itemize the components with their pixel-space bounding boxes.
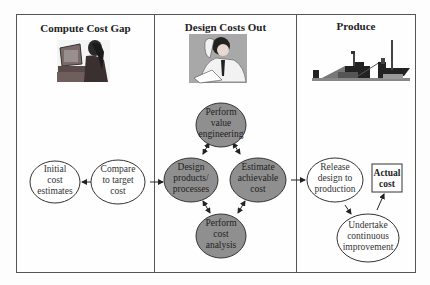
svg-text:cost: cost bbox=[213, 229, 229, 239]
svg-text:Actual: Actual bbox=[374, 168, 401, 178]
node-perform-cost-analysis: Perform cost analysis bbox=[196, 214, 246, 258]
person-at-computer-illustration bbox=[57, 40, 110, 82]
svg-text:Design: Design bbox=[178, 162, 205, 172]
svg-text:cost: cost bbox=[110, 186, 126, 196]
node-undertake-continuous-improvement: Undertake continuous improvement bbox=[337, 214, 399, 262]
svg-text:continuous: continuous bbox=[347, 231, 389, 241]
svg-text:cost: cost bbox=[250, 184, 266, 194]
arrow-estimate-cost-analysis bbox=[238, 201, 245, 213]
svg-text:Initial: Initial bbox=[44, 164, 67, 174]
svg-text:estimates: estimates bbox=[37, 186, 73, 196]
svg-text:achievable: achievable bbox=[238, 173, 279, 183]
svg-text:to target: to target bbox=[102, 175, 134, 185]
svg-text:Compare: Compare bbox=[101, 164, 136, 174]
svg-text:Estimate: Estimate bbox=[241, 162, 274, 172]
arrow-design-cost-analysis bbox=[203, 201, 210, 213]
svg-text:improvement: improvement bbox=[343, 242, 394, 252]
svg-text:Perform: Perform bbox=[205, 218, 237, 228]
node-initial-cost-estimates: Initial cost estimates bbox=[30, 161, 80, 203]
svg-text:Release: Release bbox=[320, 162, 350, 172]
svg-text:cost: cost bbox=[379, 179, 396, 189]
diagram-canvas: Initial cost estimates Compare to target… bbox=[0, 0, 430, 285]
node-perform-value-engineering: Perform value engineering bbox=[196, 103, 246, 147]
svg-text:design to: design to bbox=[318, 173, 353, 183]
svg-text:processes: processes bbox=[173, 184, 210, 194]
node-estimate-achievable-cost: Estimate achievable cost bbox=[230, 158, 286, 202]
svg-text:analysis: analysis bbox=[206, 240, 237, 250]
arrow-improve-to-actual bbox=[377, 194, 384, 210]
arrow-release-to-improve bbox=[345, 205, 351, 214]
factory-illustration bbox=[312, 40, 410, 81]
arrow-design-value-engineering bbox=[203, 143, 209, 154]
node-release-design-to-production: Release design to production bbox=[307, 158, 363, 202]
svg-text:value: value bbox=[211, 118, 232, 128]
node-design-products-processes: Design products/ processes bbox=[164, 158, 218, 202]
arrow-value-engineering-estimate bbox=[233, 143, 240, 154]
svg-text:engineering: engineering bbox=[199, 129, 244, 139]
target-costing-diagram: Compute Cost Gap Design Costs Out Produc… bbox=[0, 0, 430, 285]
node-actual-cost: Actual cost bbox=[372, 164, 402, 192]
engineer-reading-illustration bbox=[189, 34, 247, 83]
svg-text:Undertake: Undertake bbox=[348, 220, 388, 230]
svg-text:products/: products/ bbox=[173, 173, 209, 183]
node-compare-to-target-cost: Compare to target cost bbox=[91, 160, 145, 204]
svg-text:cost: cost bbox=[47, 175, 63, 185]
svg-text:production: production bbox=[314, 184, 355, 194]
svg-text:Perform: Perform bbox=[205, 107, 237, 117]
